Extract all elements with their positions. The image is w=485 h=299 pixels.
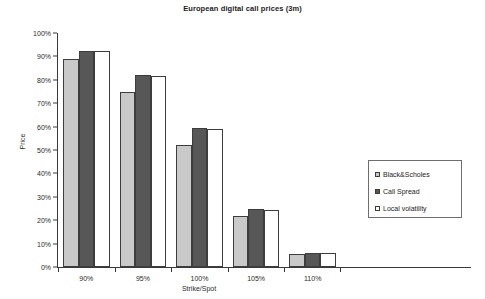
y-tick-label: 100% bbox=[33, 30, 51, 37]
x-tick-mark bbox=[115, 268, 116, 272]
x-tick-label: 100% bbox=[191, 275, 209, 282]
y-tick-label: 90% bbox=[37, 53, 51, 60]
y-tick-label: 10% bbox=[37, 240, 51, 247]
bar-group bbox=[63, 33, 110, 267]
legend-swatch-black-scholes bbox=[375, 172, 380, 177]
bar[interactable] bbox=[94, 51, 110, 267]
bar[interactable] bbox=[192, 128, 208, 267]
bar[interactable] bbox=[320, 253, 336, 267]
legend-label: Local volatility bbox=[383, 205, 427, 212]
bar[interactable] bbox=[79, 51, 95, 267]
y-tick-label: 80% bbox=[37, 76, 51, 83]
bar[interactable] bbox=[135, 75, 151, 267]
chart-legend: Black&Scholes Call Spread Local volatili… bbox=[368, 160, 462, 218]
legend-item[interactable]: Local volatility bbox=[375, 201, 461, 216]
bar[interactable] bbox=[63, 59, 79, 267]
y-tick-label: 60% bbox=[37, 123, 51, 130]
y-tick-label: 50% bbox=[37, 147, 51, 154]
y-tick-label: 40% bbox=[37, 170, 51, 177]
bar[interactable] bbox=[120, 92, 136, 268]
y-tick-label: 30% bbox=[37, 193, 51, 200]
bar-group bbox=[233, 33, 280, 267]
x-tick-label: 105% bbox=[247, 275, 265, 282]
x-axis-title: Strike/Spot bbox=[57, 285, 341, 292]
legend-label: Black&Scholes bbox=[383, 171, 430, 178]
x-tick-mark bbox=[228, 268, 229, 272]
bar[interactable] bbox=[248, 209, 264, 268]
x-tick-label: 90% bbox=[79, 275, 93, 282]
y-tick-label: 20% bbox=[37, 217, 51, 224]
y-axis-ticks: 0%10%20%30%40%50%60%70%80%90%100% bbox=[0, 33, 57, 268]
x-tick-label: 110% bbox=[304, 275, 321, 282]
bar[interactable] bbox=[176, 145, 192, 267]
x-tick-mark bbox=[340, 268, 341, 272]
legend-swatch-call-spread bbox=[375, 189, 380, 194]
y-tick-label: 70% bbox=[37, 100, 51, 107]
x-tick-mark bbox=[284, 268, 285, 272]
bar[interactable] bbox=[289, 254, 305, 267]
x-tick-mark bbox=[58, 268, 59, 272]
legend-label: Call Spread bbox=[383, 188, 420, 195]
x-tick-label: 95% bbox=[136, 275, 150, 282]
bar[interactable] bbox=[233, 216, 249, 267]
bar-groups bbox=[58, 33, 341, 267]
bar-group bbox=[176, 33, 223, 267]
bar[interactable] bbox=[264, 210, 280, 267]
bar[interactable] bbox=[207, 129, 223, 267]
legend-item[interactable]: Call Spread bbox=[375, 184, 461, 199]
legend-item[interactable]: Black&Scholes bbox=[375, 167, 461, 182]
bar[interactable] bbox=[151, 76, 167, 267]
chart-title: European digital call prices (3m) bbox=[0, 4, 485, 13]
bar-chart: European digital call prices (3m) Price … bbox=[0, 0, 485, 299]
y-tick-label: 0% bbox=[41, 264, 51, 271]
bar[interactable] bbox=[305, 253, 321, 267]
bar-group bbox=[289, 33, 336, 267]
x-axis-extension bbox=[341, 267, 471, 268]
x-tick-mark bbox=[171, 268, 172, 272]
bar-group bbox=[120, 33, 167, 267]
legend-swatch-local-volatility bbox=[375, 206, 380, 211]
